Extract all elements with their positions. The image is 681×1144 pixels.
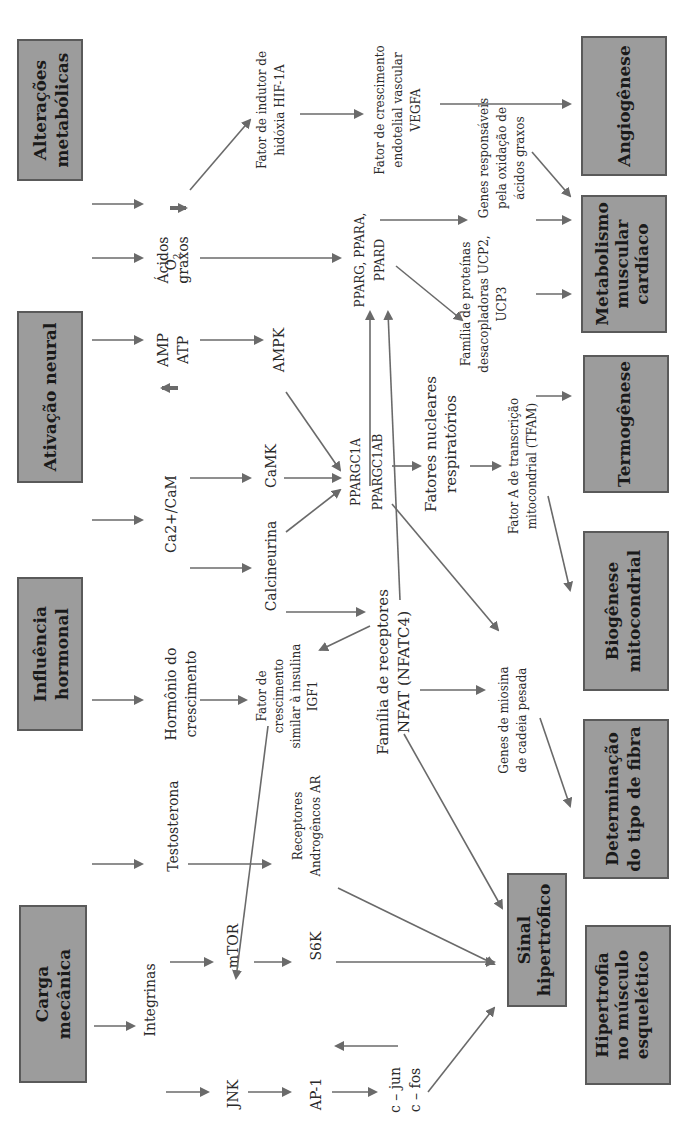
node-miosina: Genes de miosinade cadeia pesada <box>497 666 529 773</box>
node-receptores-ar: ReceptoresAndrogêncos AR <box>291 774 323 877</box>
signaling-diagram: Alteraçõesmetabólicas Ativação neural In… <box>0 0 681 1144</box>
outcome-box-termogenese: Termogênese <box>584 356 668 492</box>
node-hormonio: Hormônio docrescimento <box>163 648 199 741</box>
node-ap1: AP-1 <box>308 1078 324 1111</box>
node-pgc1a: PPARGC1A <box>349 438 363 506</box>
node-ca-cam: Ca2+/CaM <box>163 475 179 553</box>
source-box-carga: Cargamecânica <box>20 906 86 1082</box>
source-box-hormonal: Influênciahormonal <box>18 578 82 730</box>
node-integrinas: Integrinas <box>142 963 158 1036</box>
node-hif: Fator de indutor dehidóxia HIF-1A <box>255 51 287 169</box>
node-igf1: Fator decrescimentosimilar à insulinaIGF… <box>255 644 320 749</box>
node-amp: AMP <box>155 333 171 368</box>
svg-text:Hipertrofiano músculoesqueléti: Hipertrofiano músculoesquelético <box>592 950 652 1060</box>
node-atp: ATP <box>175 336 191 365</box>
node-camk: CaMK <box>263 444 279 488</box>
outcome-box-biogenese: Biogênesemitocondrial <box>584 532 668 690</box>
outcome-box-fibra: Determinaçãodo tipo de fibra <box>584 720 668 878</box>
node-vegfa: Fator de crescimentoendotelial vascularV… <box>373 45 423 174</box>
node-ppar: PPARG, PPARA,PPARD <box>353 213 387 308</box>
outcome-box-angiogenese: Angiogênese <box>582 37 666 175</box>
node-nfat: Família de receptoresNFAT (NFATC4) <box>374 589 413 755</box>
node-genes-oxidacao: Genes responsáveispela oxidação deácidos… <box>477 98 527 218</box>
svg-text:Ativação neural: Ativação neural <box>40 322 60 472</box>
node-fatores-nucleares: Fatores nuclearesrespiratórios <box>422 376 460 512</box>
sinal-hipertrofico-box: Sinalhipertrófico <box>508 874 566 1006</box>
svg-text:Termogênese: Termogênese <box>614 361 634 487</box>
node-ucp: Família de proteínasdesacopladoras UCP2,… <box>459 235 509 372</box>
node-calcineurina: Calcineurina <box>263 521 279 612</box>
node-jnk: JNK <box>225 1079 241 1110</box>
node-tfam: Fator A de transcriçãomitocondrial (TFAM… <box>507 398 539 534</box>
node-s6k: S6K <box>308 931 324 960</box>
source-box-metabolicas: Alteraçõesmetabólicas <box>18 40 82 180</box>
outcome-box-metabolismo: Metabolismomuscularcardíaco <box>582 196 666 332</box>
node-ampk: AMPK <box>271 327 287 373</box>
outcome-box-hipertrofia: Hipertrofiano músculoesquelético <box>586 926 670 1084</box>
node-cjun-cfos: c – junc – fos <box>387 1067 423 1113</box>
source-box-neural: Ativação neural <box>18 312 82 482</box>
node-testosterona: Testosterona <box>165 780 181 871</box>
svg-text:Angiogênese: Angiogênese <box>614 45 634 168</box>
node-pgc1ab: PPARGC1AB <box>371 434 385 511</box>
